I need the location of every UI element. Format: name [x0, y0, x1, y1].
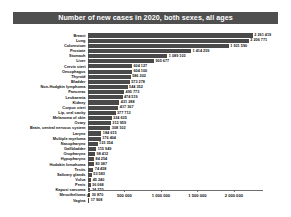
bar-value-label: 604 100 [132, 69, 147, 74]
bar-value-label: 474 519 [123, 95, 138, 100]
bar-category-label: Lung [0, 39, 88, 43]
bar-category-label: Lip, oral cavity [0, 111, 88, 115]
bar-category-label: Leukaemia [0, 96, 88, 100]
bar-category-label: Cervix uteri [0, 65, 88, 69]
bar-category-label: Brain, central nervous system [0, 126, 88, 130]
bar [88, 116, 112, 120]
bar-value-label: 84 254 [94, 157, 107, 162]
bar [88, 95, 123, 99]
bar-value-label: 495 773 [124, 90, 139, 95]
bar-value-label: 417 367 [118, 105, 133, 110]
bar [88, 147, 96, 151]
bar-value-label: 377 713 [116, 111, 131, 116]
bar-category-label: Nasopharynx [0, 142, 88, 146]
bar [88, 44, 229, 48]
bar-category-label: Corpus uteri [0, 106, 88, 110]
bar [88, 142, 98, 146]
bar [88, 85, 128, 89]
bar [88, 64, 132, 68]
bar-value-label: 53 583 [92, 172, 105, 177]
x-axis-tick-label: 500 000 [117, 194, 132, 198]
bar-value-label: 544 352 [128, 85, 143, 90]
bar-value-label: 184 615 [101, 131, 116, 136]
bar-category-label: Prostate [0, 49, 88, 53]
bar [88, 126, 110, 130]
bar-value-label: 905 677 [154, 59, 169, 64]
bar-value-label: 36 068 [91, 183, 104, 188]
bar-category-label: Multiple myeloma [0, 137, 88, 141]
bar [88, 137, 101, 141]
bar-category-label: Bladder [0, 80, 88, 84]
bar-category-label: Hodgkin lymphoma [0, 163, 88, 167]
x-axis-line [88, 190, 263, 191]
bar-category-label: Pancreas [0, 90, 88, 94]
bar [88, 75, 131, 79]
bar-category-label: Hypopharynx [0, 157, 88, 161]
bar-value-label: 308 102 [110, 126, 125, 131]
plot-area: Breast2 261 419Lung2 206 771Colorectum1 … [0, 33, 291, 190]
bar-category-label: Vulva [0, 178, 88, 182]
bar-category-label: Oropharynx [0, 152, 88, 156]
bar-category-label: Melanoma of skin [0, 116, 88, 120]
bar [88, 100, 119, 104]
bar-chart: Number of new cases in 2020, both sexes,… [0, 0, 291, 217]
bar-category-label: Kidney [0, 101, 88, 105]
x-axis-tick-label: 2 000 000 [225, 194, 243, 198]
bar [88, 54, 167, 58]
bar-value-label: 586 202 [131, 74, 146, 79]
bar-value-label: 176 404 [101, 136, 116, 141]
bar-category-label: Larynx [0, 132, 88, 136]
bar [88, 152, 95, 156]
bar-value-label: 83 087 [94, 162, 107, 167]
bar [88, 121, 111, 125]
bar-value-label: 45 240 [91, 178, 104, 183]
bar-value-label: 573 278 [130, 80, 145, 85]
bar-category-label: Oesophagus [0, 70, 88, 74]
x-axis-tick-label: 0 [87, 194, 89, 198]
bar-category-label: Gallbladder [0, 147, 88, 151]
bar [88, 39, 249, 43]
bar-value-label: 98 412 [95, 152, 108, 157]
bar-category-label: Stomach [0, 54, 88, 58]
x-axis: 0500 0001 000 0001 500 0002 000 000 [0, 190, 291, 212]
bar-value-label: 324 635 [112, 116, 127, 121]
bar-value-label: 1 931 590 [229, 44, 247, 49]
bar-value-label: 1 089 103 [167, 54, 185, 59]
bar-category-label: Thyroid [0, 75, 88, 79]
bar-value-label: 2 206 771 [249, 38, 267, 43]
chart-title-banner: Number of new cases in 2020, both sexes,… [13, 12, 278, 24]
bar-value-label: 1 414 259 [191, 49, 209, 54]
bar [88, 33, 253, 37]
bar [88, 70, 132, 74]
bar [88, 131, 101, 135]
bar [88, 49, 191, 53]
bar-value-label: 2 261 419 [253, 33, 271, 38]
bar [88, 111, 116, 115]
bar-category-label: Testis [0, 168, 88, 172]
bar-category-label: Penis [0, 183, 88, 187]
bar-value-label: 115 949 [96, 147, 111, 152]
bar-category-label: Breast [0, 34, 88, 38]
bar-value-label: 431 288 [119, 100, 134, 105]
bar-category-label: Ovary [0, 121, 88, 125]
chart-title: Number of new cases in 2020, both sexes,… [58, 14, 233, 21]
bar-category-label: Salivary glands [0, 173, 88, 177]
x-axis-tick-label: 1 500 000 [188, 194, 206, 198]
bar-value-label: 313 959 [111, 121, 126, 126]
bar-category-label: Non-Hodgkin lymphoma [0, 85, 88, 89]
bar-value-label: 604 127 [132, 64, 147, 69]
bar [88, 90, 124, 94]
bar-category-label: Liver [0, 59, 88, 63]
x-axis-tick-label: 1 000 000 [152, 194, 170, 198]
bar-category-label: Colorectum [0, 44, 88, 48]
bar [88, 59, 154, 63]
bar [88, 106, 118, 110]
bar-value-label: 133 354 [98, 141, 113, 146]
bar-value-label: 74 458 [93, 167, 106, 172]
bar [88, 80, 130, 84]
